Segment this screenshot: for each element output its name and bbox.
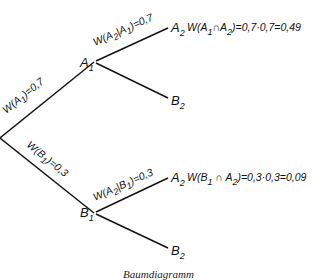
node-b2-bottom: B2 [171,243,185,261]
diagram-caption: Baumdiagramm [0,268,317,280]
edge-label-a2-given-a1: W(A2|A1)=0,7 [91,10,157,50]
node-b2-top: B2 [171,93,185,111]
result-a1-and-a2: W(A1∩A2)=0,7·0,7=0,49 [187,21,301,37]
edge-a1-b2 [96,63,168,98]
node-a2-bottom: A2 [170,170,185,188]
edge-b1-b2 [96,214,168,248]
edge-label-a1: W(A1)=0,7 [0,74,49,118]
result-b1-and-a2: W(B1 ∩ A2)=0,3·0,3=0,09 [187,171,306,187]
node-b1: B1 [80,205,94,223]
node-a1: A1 [79,55,94,73]
node-a2-top: A2 [170,20,185,38]
